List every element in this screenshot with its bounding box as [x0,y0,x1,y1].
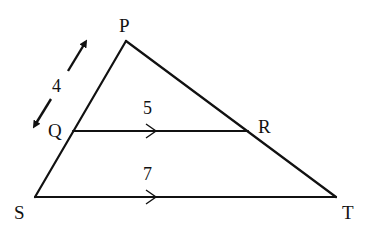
vertex-label-R: R [258,116,271,137]
vertex-label-Q: Q [48,120,62,141]
vertex-label-P: P [119,15,130,36]
length-label-ST: 7 [143,164,152,184]
side-PS [35,41,126,197]
length-label-QR: 5 [143,98,152,118]
length-label-PQ: 4 [52,76,61,96]
vertex-label-S: S [14,202,25,223]
dimension-arrow-up-icon [68,43,85,71]
vertex-label-T: T [342,202,354,223]
triangle-diagram: P Q R S T 4 5 7 [0,0,366,239]
side-PT [126,41,336,197]
